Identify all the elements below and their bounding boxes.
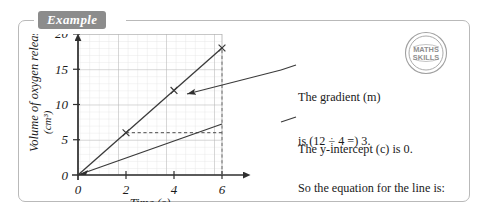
stamp-line-2: SKILLS [413,53,439,62]
y-axis-title-line2: (cm³) [41,110,54,134]
oxygen-vs-time-graph: 20 15 10 5 0 0 2 4 6 [22,34,280,202]
maths-skills-stamp: MATHS SKILLS [404,31,448,75]
y-axis-ticks: 20 15 10 5 0 [55,34,80,183]
x-tick-6: 6 [219,182,226,197]
y-axis-title-line1: Volume of oxygen released [27,34,41,152]
y-tick-5: 5 [62,132,69,147]
y-tick-0: 0 [62,168,69,183]
x-tick-2: 2 [123,182,130,197]
equation-callout: So the equation for the line is: y = 3x … [298,152,445,222]
y-tick-10: 10 [55,97,69,112]
grid-group [78,34,222,175]
y-tick-15: 15 [55,62,69,77]
x-tick-0: 0 [75,182,82,197]
equation-callout-line1: So the equation for the line is: [298,181,445,196]
example-banner-label: Example [38,11,106,29]
y-tick-20: 20 [55,34,69,41]
example-figure-page: Example MATHS SKILLS [0,0,485,222]
x-axis-title: Time (s) [130,196,171,202]
x-tick-4: 4 [171,182,178,197]
gradient-callout-line1: The gradient (m) [298,90,381,105]
